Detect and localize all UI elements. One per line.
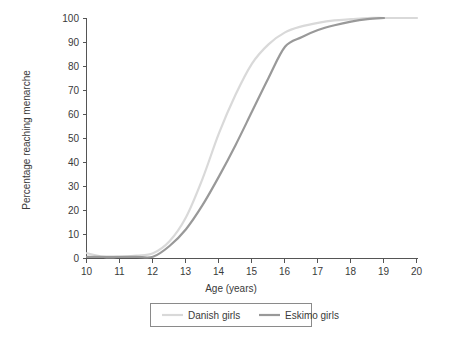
series-lines [87,18,417,258]
x-tick-label: 20 [411,266,423,277]
y-tick-label: 10 [68,229,80,240]
x-tick-label: 19 [378,266,390,277]
legend-label-eskimo-girls: Eskimo girls [285,310,339,321]
x-tick-label: 10 [81,266,93,277]
y-tick-label: 80 [68,61,80,72]
x-tick-label: 16 [279,266,291,277]
y-tick-label: 100 [62,13,79,24]
y-tick-label: 40 [68,157,80,168]
x-tick-label: 14 [213,266,225,277]
x-tick-label: 15 [246,266,258,277]
x-tick-label: 12 [147,266,159,277]
y-tick-label: 20 [68,205,80,216]
x-tick-label: 13 [180,266,192,277]
y-tick-label: 0 [73,253,79,264]
x-tick-label: 11 [114,266,125,277]
series-line-eskimo-girls [87,18,384,258]
x-axis-ticks [87,259,417,263]
y-tick-label: 30 [68,181,80,192]
chart-container: 0102030405060708090100 10111213141516171… [0,0,460,347]
x-axis-title: Age (years) [205,283,257,294]
plot-area: 0102030405060708090100 10111213141516171… [62,13,422,277]
y-tick-label: 50 [68,133,80,144]
y-axis-tick-labels: 0102030405060708090100 [62,13,79,264]
series-line-danish-girls [87,18,417,257]
x-tick-label: 17 [312,266,324,277]
y-tick-label: 60 [68,109,80,120]
x-tick-label: 18 [345,266,357,277]
legend: Danish girlsEskimo girls [151,304,339,327]
menarche-line-chart: 0102030405060708090100 10111213141516171… [0,0,460,347]
y-axis-title: Percentage reaching menarche [21,70,32,210]
y-axis-ticks [83,19,87,259]
x-axis-tick-labels: 1011121314151617181920 [81,266,423,277]
y-tick-label: 70 [68,85,80,96]
legend-label-danish-girls: Danish girls [188,310,240,321]
y-tick-label: 90 [68,37,80,48]
